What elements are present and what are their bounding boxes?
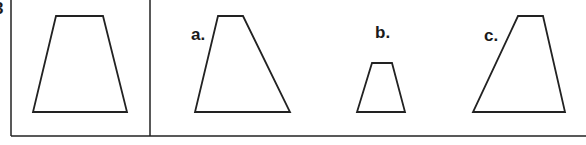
option-b-label: b. <box>375 24 390 41</box>
reference-trapezoid <box>33 16 127 112</box>
option-a-trapezoid <box>195 16 290 112</box>
option-b-trapezoid <box>357 63 405 112</box>
figure-canvas <box>0 0 586 145</box>
option-a-label: a. <box>191 26 205 43</box>
figure-panel: 3 a. b. c. <box>0 0 586 145</box>
partial-label-fragment: 3 <box>0 0 4 17</box>
option-c-label: c. <box>484 27 498 44</box>
